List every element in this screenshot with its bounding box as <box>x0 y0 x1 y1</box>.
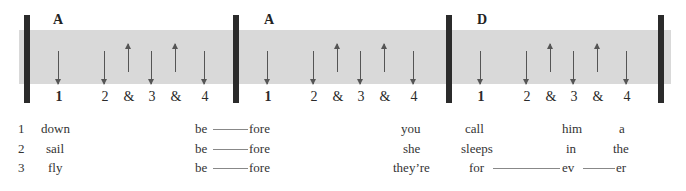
lyric-word: be <box>195 141 207 157</box>
strum-down-arrow-icon <box>104 51 105 84</box>
strum-down-arrow-icon <box>58 51 59 84</box>
chord-symbol: D <box>477 12 487 28</box>
lyric-word: she <box>403 141 420 157</box>
barline <box>446 15 452 103</box>
lyric-word: him <box>562 121 582 137</box>
lyric-word: sail <box>46 141 64 157</box>
beat-count: 1 <box>265 89 272 105</box>
strum-down-arrow-icon <box>151 51 152 84</box>
strum-down-arrow-icon <box>573 51 574 84</box>
lyric-word: call <box>465 121 484 137</box>
strum-down-arrow-icon <box>626 51 627 84</box>
beat-count: 3 <box>571 89 578 105</box>
beat-count: & <box>171 89 182 105</box>
beat-count: 3 <box>149 89 156 105</box>
strum-down-arrow-icon <box>480 51 481 84</box>
lyric-word: the <box>613 141 629 157</box>
beat-count: & <box>593 89 604 105</box>
beat-count: 3 <box>358 89 365 105</box>
chord-symbol: A <box>53 12 63 28</box>
syllable-hyphen <box>493 168 560 169</box>
beat-count: & <box>124 89 135 105</box>
lyric-word: a <box>619 121 625 137</box>
verse-number: 1 <box>18 121 25 137</box>
strum-up-arrow-icon <box>175 44 176 72</box>
beat-count: 2 <box>311 89 318 105</box>
syllable-hyphen <box>213 129 248 130</box>
lyric-word: you <box>401 121 421 137</box>
lyric-word: for <box>469 160 484 176</box>
strum-up-arrow-icon <box>128 44 129 72</box>
strum-up-arrow-icon <box>597 44 598 72</box>
verse-number: 2 <box>18 141 25 157</box>
syllable-hyphen <box>213 168 248 169</box>
strum-down-arrow-icon <box>413 51 414 84</box>
lyric-word: fore <box>249 160 270 176</box>
barline <box>233 15 239 103</box>
strum-up-arrow-icon <box>337 44 338 72</box>
syllable-hyphen <box>213 149 248 150</box>
lyric-word: fly <box>48 160 62 176</box>
chord-symbol: A <box>264 12 274 28</box>
strum-down-arrow-icon <box>526 51 527 84</box>
barline <box>658 15 664 103</box>
lyric-word: down <box>41 121 70 137</box>
beat-count: & <box>546 89 557 105</box>
lyric-word: ev <box>562 160 574 176</box>
beat-count: 4 <box>624 89 631 105</box>
beat-count: 2 <box>102 89 109 105</box>
lyric-word: er <box>616 160 626 176</box>
beat-count: 2 <box>524 89 531 105</box>
lyric-word: sleeps <box>461 141 493 157</box>
strum-down-arrow-icon <box>360 51 361 84</box>
beat-count: 1 <box>478 89 485 105</box>
strum-up-arrow-icon <box>550 44 551 72</box>
strum-down-arrow-icon <box>267 51 268 84</box>
strum-down-arrow-icon <box>313 51 314 84</box>
verse-number: 3 <box>18 160 25 176</box>
beat-count: 4 <box>202 89 209 105</box>
beat-count: 1 <box>56 89 63 105</box>
strum-down-arrow-icon <box>204 51 205 84</box>
lyric-word: in <box>566 141 576 157</box>
lyric-word: they’re <box>393 160 430 176</box>
lyric-word: be <box>195 121 207 137</box>
beat-count: 4 <box>411 89 418 105</box>
lyric-word: be <box>195 160 207 176</box>
lyric-word: fore <box>249 141 270 157</box>
strum-up-arrow-icon <box>384 44 385 72</box>
beat-count: & <box>380 89 391 105</box>
lyric-word: fore <box>249 121 270 137</box>
syllable-hyphen <box>583 168 615 169</box>
barline <box>24 15 30 103</box>
beat-count: & <box>333 89 344 105</box>
